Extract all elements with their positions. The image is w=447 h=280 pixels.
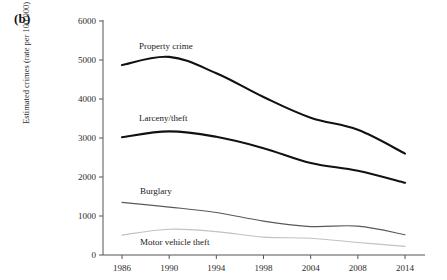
x-tick-label: 2014	[396, 263, 415, 273]
y-tick-label: 4000	[78, 94, 97, 104]
series-label-larceny-theft: Larceny/theft	[139, 113, 188, 123]
x-tick-label: 2008	[349, 263, 368, 273]
series-label-property-crime: Property crime	[139, 41, 193, 51]
x-tick-label: 1994	[207, 263, 226, 273]
series-line-property-crime	[122, 57, 405, 154]
y-tick-label: 2000	[78, 172, 97, 182]
y-tick-label: 0	[92, 250, 97, 260]
x-tick-label: 1990	[160, 263, 179, 273]
x-tick-label: 1986	[113, 263, 132, 273]
figure-panel: (b) Estimated crimes (rate per 100,000) …	[0, 0, 447, 280]
series-label-burglary: Burglary	[140, 186, 172, 196]
y-tick-label: 5000	[78, 55, 97, 65]
y-tick-label: 3000	[78, 133, 97, 143]
x-tick-label: 2004	[302, 263, 321, 273]
x-tick-label: 1998	[255, 263, 274, 273]
series-line-larceny-theft	[122, 131, 405, 182]
line-chart: 0100020003000400050006000198619901994199…	[0, 0, 447, 280]
y-tick-label: 1000	[78, 211, 97, 221]
series-label-motor-vehicle-theft: Motor vehicle theft	[140, 237, 210, 247]
y-tick-label: 6000	[78, 16, 97, 26]
